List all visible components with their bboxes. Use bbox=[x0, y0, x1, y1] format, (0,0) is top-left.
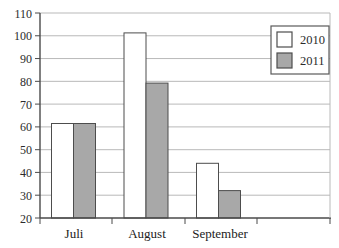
x-axis-label-juli: Juli bbox=[65, 226, 84, 241]
bar-september-2011 bbox=[219, 191, 241, 218]
y-axis-label-30: 30 bbox=[20, 189, 32, 203]
y-axis-label-110: 110 bbox=[14, 7, 32, 21]
bar-group-juli bbox=[52, 124, 96, 219]
chart-canvas: 110 100 90 80 70 60 50 40 30 20 bbox=[0, 0, 339, 248]
y-axis-label-40: 40 bbox=[20, 166, 32, 180]
bar-august-2010 bbox=[124, 33, 146, 218]
chart-legend: 2010 2011 bbox=[271, 26, 329, 74]
legend-swatch-2010 bbox=[277, 32, 292, 47]
bar-august-2011 bbox=[146, 83, 168, 218]
y-axis-label-90: 90 bbox=[20, 52, 32, 66]
bar-chart: 110 100 90 80 70 60 50 40 30 20 bbox=[0, 0, 339, 248]
bar-september-2010 bbox=[197, 163, 219, 218]
legend-swatch-2011 bbox=[277, 53, 292, 68]
y-axis-label-100: 100 bbox=[14, 29, 32, 43]
legend-label-2010: 2010 bbox=[300, 33, 325, 47]
y-axis-label-50: 50 bbox=[20, 143, 32, 157]
y-axis-label-60: 60 bbox=[20, 120, 32, 134]
bar-juli-2010 bbox=[52, 124, 74, 219]
x-axis-label-august: August bbox=[128, 226, 166, 241]
y-axis-label-20: 20 bbox=[20, 212, 32, 226]
x-axis-label-september: September bbox=[192, 226, 248, 241]
bar-juli-2011 bbox=[74, 124, 96, 219]
y-axis-label-70: 70 bbox=[20, 98, 32, 112]
y-axis-label-80: 80 bbox=[20, 75, 32, 89]
legend-label-2011: 2011 bbox=[300, 54, 325, 68]
